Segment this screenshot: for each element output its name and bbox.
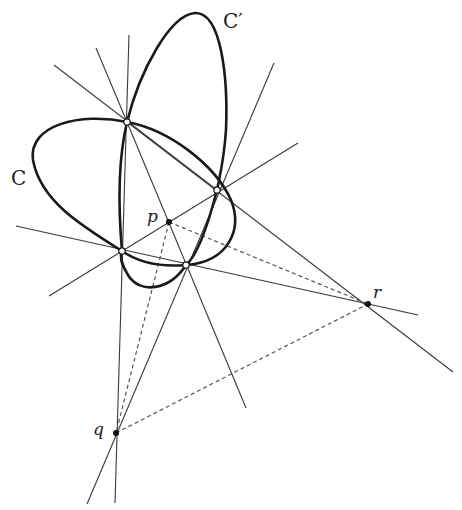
line-A-up (96, 48, 127, 122)
conic-diagram: C′ C p q r (0, 0, 462, 510)
intersection-point-B (214, 187, 220, 193)
diagram-svg (0, 0, 462, 510)
line-DE-r (16, 226, 418, 315)
label-r: r (373, 282, 381, 302)
diagonal-point-r (365, 301, 371, 307)
line-AB-r (127, 122, 453, 372)
intersection-point-D (119, 248, 125, 254)
diagonal-point-q (113, 430, 119, 436)
diagonal-triangle-dashed-lines (116, 222, 368, 433)
line-BE-q (87, 63, 274, 504)
intersection-point-A (124, 119, 130, 125)
conic-C-prime (119, 13, 226, 287)
dashed-qr (116, 304, 368, 433)
diagonal-point-p (166, 219, 172, 225)
label-q: q (93, 419, 104, 439)
line-A-upleft (54, 65, 217, 190)
conic-intersection-points (119, 119, 220, 268)
intersection-point-E (183, 262, 189, 268)
label-p: p (147, 206, 158, 226)
line-BD (49, 143, 298, 296)
label-C: C (11, 166, 26, 190)
label-C-prime: C′ (223, 9, 243, 33)
construction-lines (16, 35, 453, 504)
